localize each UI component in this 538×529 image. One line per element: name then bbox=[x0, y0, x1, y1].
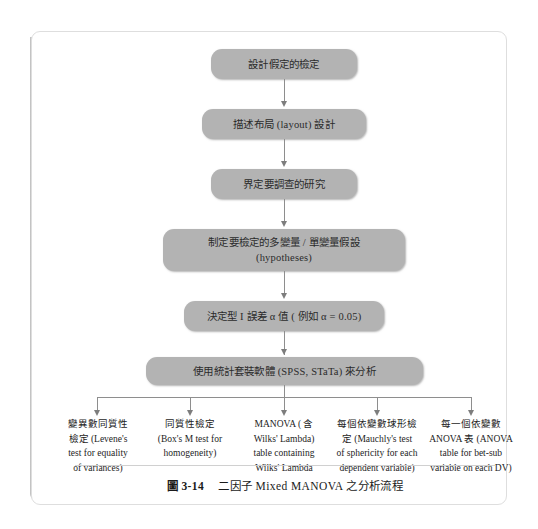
flow-step-4-text: 制定要檢定的多變量 / 單變量假設 (hypotheses) bbox=[171, 235, 397, 265]
output-leaf-boxm: 同質性檢定 (Box's M test for homogeneity) bbox=[141, 417, 239, 461]
branch-drop-1-arrowhead bbox=[94, 410, 100, 416]
figure-caption-number: 圖 3-14 bbox=[167, 480, 204, 492]
output-leaf-levene-line-4: of variances) bbox=[55, 461, 141, 476]
output-leaf-anova-line-2: ANOVA 表 (ANOVA bbox=[410, 432, 532, 447]
connector-5-6-arrowhead bbox=[281, 349, 287, 355]
connector-2-3-arrowhead bbox=[281, 161, 287, 167]
branch-drop-2-arrowhead bbox=[187, 410, 193, 416]
flow-step-5-label: 決定型 I 誤差 α 值 ( 例如 α = 0.05) bbox=[192, 309, 376, 324]
figure-caption: 圖 3-14二因子 Mixed MANOVA 之分析流程 bbox=[63, 477, 507, 493]
flow-step-4-line2: (hypotheses) bbox=[256, 252, 312, 263]
connector-1-2-arrowhead bbox=[281, 101, 287, 107]
flow-step-3-label: 界定要調查的研究 bbox=[219, 177, 349, 192]
figure-page: 設計假定的檢定 描述布局 (layout) 設計 界定要調查的研究 制定要檢定的… bbox=[0, 0, 538, 529]
output-leaf-anova-line-1: 每一個依變數 bbox=[410, 417, 532, 432]
output-leaf-anova-line-4: variable on each DV) bbox=[410, 461, 532, 476]
flowchart-canvas: 設計假定的檢定 描述布局 (layout) 設計 界定要調查的研究 制定要檢定的… bbox=[63, 31, 507, 505]
flow-step-5[interactable]: 決定型 I 誤差 α 值 ( 例如 α = 0.05) bbox=[184, 301, 384, 331]
output-leaf-manova-line-1: MANOVA ( 含 bbox=[237, 417, 331, 432]
flow-step-4-line1: 制定要檢定的多變量 / 單變量假設 bbox=[208, 237, 360, 248]
connector-3-4-arrowhead bbox=[281, 221, 287, 227]
figure-caption-title: 二因子 Mixed MANOVA 之分析流程 bbox=[218, 480, 403, 492]
output-leaf-levene-line-3: test for equality bbox=[55, 446, 141, 461]
flow-step-1[interactable]: 設計假定的檢定 bbox=[211, 49, 357, 79]
flow-step-3[interactable]: 界定要調查的研究 bbox=[211, 169, 357, 199]
output-leaf-boxm-line-2: (Box's M test for bbox=[141, 432, 239, 447]
flow-step-1-label: 設計假定的檢定 bbox=[219, 57, 349, 72]
output-leaf-levene: 變異數同質性 檢定 (Levene's test for equality of… bbox=[55, 417, 141, 475]
output-leaf-boxm-line-1: 同質性檢定 bbox=[141, 417, 239, 432]
output-leaf-manova-line-4: Wilks' Lambda bbox=[237, 461, 331, 476]
output-leaf-anova-line-3: table for bet-sub bbox=[410, 446, 532, 461]
output-leaf-anova: 每一個依變數 ANOVA 表 (ANOVA table for bet-sub … bbox=[410, 417, 532, 475]
caption-divider bbox=[75, 465, 495, 466]
flow-step-2-label: 描述布局 (layout) 設計 bbox=[210, 117, 358, 132]
flow-step-2[interactable]: 描述布局 (layout) 設計 bbox=[202, 109, 366, 139]
flow-step-6[interactable]: 使用統計套裝軟體 (SPSS, STaTa) 來分析 bbox=[146, 357, 423, 385]
output-leaf-manova-line-2: Wilks' Lambda) bbox=[237, 432, 331, 447]
output-leaf-levene-line-2: 檢定 (Levene's bbox=[55, 432, 141, 447]
branch-drop-4-arrowhead bbox=[374, 410, 380, 416]
output-leaf-levene-line-1: 變異數同質性 bbox=[55, 417, 141, 432]
connector-4-5-arrowhead bbox=[281, 293, 287, 299]
output-leaf-manova-line-3: table containing bbox=[237, 446, 331, 461]
output-leaf-boxm-line-3: homogeneity) bbox=[141, 446, 239, 461]
branch-drop-5-arrowhead bbox=[468, 410, 474, 416]
flow-step-4[interactable]: 制定要檢定的多變量 / 單變量假設 (hypotheses) bbox=[163, 229, 405, 271]
output-leaf-manova: MANOVA ( 含 Wilks' Lambda) table containi… bbox=[237, 417, 331, 475]
branch-drop-3-arrowhead bbox=[281, 410, 287, 416]
flow-step-6-label: 使用統計套裝軟體 (SPSS, STaTa) 來分析 bbox=[154, 364, 415, 379]
